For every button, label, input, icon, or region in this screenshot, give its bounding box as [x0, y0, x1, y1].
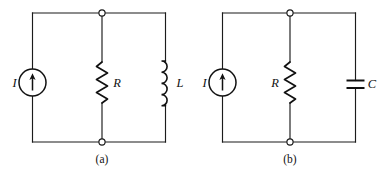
inductor-coil	[162, 61, 168, 106]
resistor-zigzag	[97, 62, 108, 103]
circuit-b-resistor	[285, 62, 296, 103]
circuit-a-bottom-node	[99, 139, 105, 145]
circuit-b-bottom-node	[287, 139, 293, 145]
circuit-a-top-node	[99, 10, 105, 16]
circuit-b-capacitor-label: C	[368, 77, 377, 91]
circuit-a-inductor	[162, 61, 168, 106]
circuit-b-caption: (b)	[283, 153, 297, 166]
circuit-a-resistor	[97, 62, 108, 103]
circuit-canvas: I R L (a)	[0, 0, 384, 171]
circuit-b-top-node	[287, 10, 293, 16]
circuit-a-caption: (a)	[96, 153, 109, 166]
circuit-a-current-source	[19, 69, 46, 96]
circuit-b-capacitor	[347, 81, 365, 89]
circuit-a: I R L (a)	[11, 10, 183, 166]
resistor-zigzag	[285, 62, 296, 103]
circuit-a-source-label: I	[11, 76, 17, 90]
circuit-b-current-source	[209, 69, 236, 96]
circuit-b-resistor-label: R	[270, 76, 279, 90]
circuit-b-source-label: I	[201, 76, 207, 90]
circuit-a-inductor-label: L	[176, 76, 184, 90]
circuit-figure: I R L (a)	[0, 0, 384, 171]
circuit-a-resistor-label: R	[112, 76, 121, 90]
circuit-b: I R C (b)	[201, 10, 376, 166]
